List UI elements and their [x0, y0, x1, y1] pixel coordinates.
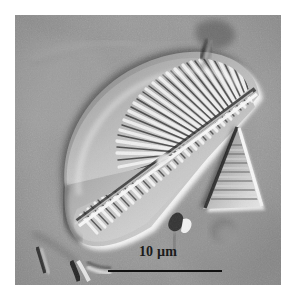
- micrograph-figure: 10 µm: [0, 0, 292, 298]
- scale-bar: 10 µm: [93, 243, 223, 277]
- scale-bar-label: 10 µm: [93, 243, 223, 260]
- scale-bar-line: [108, 270, 222, 272]
